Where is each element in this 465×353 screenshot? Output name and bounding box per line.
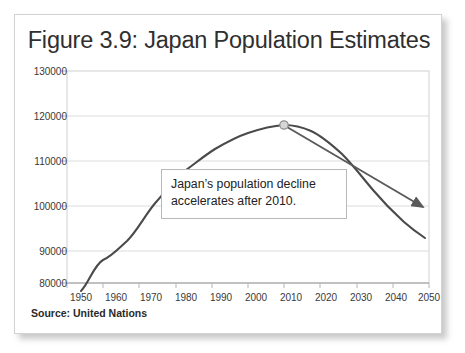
x-tick-label: 2020 [315, 292, 337, 303]
x-tick-label: 2030 [350, 292, 372, 303]
chart-plot-area: 130000 120000 110000 100000 90000 80000 [15, 15, 443, 335]
x-tick-label: 2010 [280, 292, 302, 303]
x-tick-label: 2050 [418, 292, 440, 303]
source-note: Source: United Nations [31, 307, 147, 319]
x-tick-label: 1980 [175, 292, 197, 303]
annotation-textbox: Japan’s population decline accelerates a… [161, 169, 347, 219]
x-tick-label: 2000 [245, 292, 267, 303]
figure-card: Figure 3.9: Japan Population Estimates 1… [14, 14, 442, 334]
x-tick-label: 1960 [105, 292, 127, 303]
x-tick-label: 2040 [385, 292, 407, 303]
x-tick-label: 1990 [210, 292, 232, 303]
x-tick-label: 1970 [140, 292, 162, 303]
x-tick-label: 1950 [70, 292, 92, 303]
